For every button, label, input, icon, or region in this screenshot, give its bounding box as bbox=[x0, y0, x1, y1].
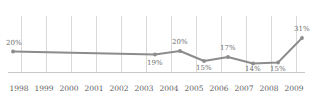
data-label-2006: 17% bbox=[220, 44, 236, 52]
data-point-2006 bbox=[226, 55, 230, 59]
data-label-2005: 15% bbox=[196, 64, 212, 72]
data-label-1998: 20% bbox=[6, 39, 22, 47]
data-point-2005 bbox=[202, 59, 206, 63]
data-point-1998 bbox=[11, 50, 15, 54]
data-point-2009 bbox=[300, 36, 304, 40]
data-label-2008: 15% bbox=[270, 65, 286, 73]
data-label-2003: 19% bbox=[147, 59, 163, 67]
data-label-2004: 20% bbox=[172, 38, 188, 46]
data-point-2004 bbox=[178, 49, 182, 53]
x-tick-2009: 2009 bbox=[275, 84, 313, 93]
data-point-2008 bbox=[276, 61, 280, 65]
data-label-2007: 14% bbox=[245, 65, 261, 73]
line-chart: 20% 19% 20% 15% 17% 14% 15% 31% 1998 199… bbox=[0, 0, 313, 98]
data-label-2009: 31% bbox=[294, 25, 310, 33]
data-point-2003 bbox=[153, 53, 157, 57]
